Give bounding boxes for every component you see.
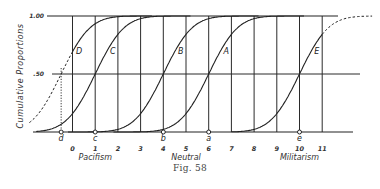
x-tick-label: 9 (275, 145, 280, 153)
x-tick-label: 5 (184, 145, 189, 153)
group-label-militarism: Militarism (280, 153, 319, 162)
x-tick-label: 10 (295, 145, 305, 153)
x-tick-label: 7 (229, 145, 234, 153)
curve-label-A: A (223, 47, 229, 56)
x-tick-label: 4 (161, 145, 166, 153)
figure-caption: Fig. 58 (0, 163, 380, 173)
x-tick-label: 2 (116, 145, 121, 153)
median-label-b: b (161, 134, 166, 143)
group-label-pacifism: Pacifism (78, 153, 112, 162)
x-tick-label: 11 (318, 145, 327, 153)
median-label-d: d (59, 134, 65, 143)
labels: 01234567891011.501.00dDcCbBaAeEPacifismN… (29, 12, 327, 162)
median-label-e: e (297, 134, 302, 143)
median-label-a: a (206, 134, 211, 143)
x-tick-label: 1 (93, 145, 98, 153)
x-tick-label: 6 (206, 145, 211, 153)
y-tick-label: 1.00 (29, 12, 44, 19)
curve-E-dashed (322, 16, 372, 34)
median-label-c: c (93, 134, 98, 143)
curve-label-E: E (314, 47, 320, 56)
ogive-chart: 01234567891011.501.00dDcCbBaAeEPacifismN… (0, 0, 380, 189)
y-axis-title: Cumulative Proportions (16, 24, 25, 129)
x-tick-label: 3 (138, 145, 143, 153)
curve-label-B: B (178, 47, 184, 56)
curve-D-dashed (29, 52, 72, 123)
curve-label-C: C (110, 47, 116, 56)
x-tick-label: 8 (252, 145, 257, 153)
grid (52, 16, 360, 132)
x-tick-label: 0 (70, 145, 75, 153)
curve-label-D: D (76, 47, 82, 56)
group-label-neutral: Neutral (171, 153, 201, 162)
y-tick-label: .50 (33, 70, 44, 77)
